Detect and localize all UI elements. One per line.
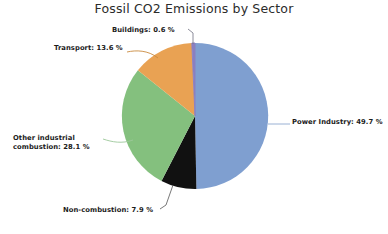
slice-label-non-combustion: Non-combustion: 7.9 % bbox=[63, 206, 153, 215]
chart-page: Fossil CO2 Emissions by Sector Buildings… bbox=[0, 0, 388, 234]
leader-line-non-combustion bbox=[160, 185, 173, 209]
slice-label-transport: Transport: 13.6 % bbox=[54, 44, 123, 53]
leader-line-buildings bbox=[188, 29, 193, 44]
pie-slice-power-industry[interactable] bbox=[195, 43, 268, 189]
slice-label-other-line2: combustion: 28.1 % bbox=[13, 143, 105, 152]
slice-label-other-line1: Other industrial bbox=[13, 134, 105, 143]
slice-label-power-industry: Power Industry: 49.7 % bbox=[292, 118, 383, 127]
slice-label-buildings: Buildings: 0.6 % bbox=[112, 26, 175, 35]
slice-label-other-industrial-combustion: Other industrial combustion: 28.1 % bbox=[13, 134, 105, 151]
pie-chart-graphic bbox=[0, 0, 388, 234]
